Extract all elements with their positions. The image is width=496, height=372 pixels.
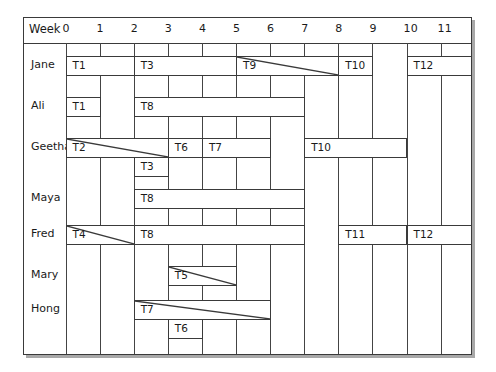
person-label-maya: Maya	[31, 191, 60, 204]
task-label: T3	[141, 160, 154, 172]
week-tick-label: 1	[97, 22, 104, 35]
week-tick-label: 7	[301, 22, 308, 35]
task-label: T7	[209, 141, 222, 153]
week-tick-label: 5	[233, 22, 240, 35]
week-gridline	[441, 43, 442, 354]
week-gridline	[66, 43, 67, 354]
person-label-ali: Ali	[31, 99, 45, 112]
task-bar-t5: T5	[168, 266, 237, 286]
week-tick-label: 6	[267, 22, 274, 35]
week-header-title: Week	[29, 22, 61, 36]
week-tick-label: 11	[438, 22, 452, 35]
task-label: T8	[141, 192, 154, 204]
task-label: T6	[175, 141, 188, 153]
task-label: T1	[73, 59, 86, 71]
task-bar-t8: T8	[134, 97, 306, 117]
week-tick-label: 9	[369, 22, 376, 35]
task-label: T7	[141, 303, 154, 315]
task-label: T4	[73, 228, 86, 240]
task-bar-t12: T12	[407, 56, 473, 76]
task-bar-t3: T3	[134, 157, 169, 177]
task-bar-t4: T4	[66, 225, 135, 245]
gantt-chart-frame: Week 01234567891011 JaneAliGeethaMayaFre…	[23, 17, 472, 355]
week-tick-label: 8	[335, 22, 342, 35]
person-label-jane: Jane	[31, 58, 55, 71]
week-gridline	[372, 43, 373, 354]
task-label: T1	[73, 100, 86, 112]
task-bar-t8: T8	[134, 189, 306, 209]
task-bar-t12: T12	[407, 225, 473, 245]
task-bar-t1: T1	[66, 97, 101, 117]
task-bar-t8: T8	[134, 225, 306, 245]
task-bar-t10: T10	[338, 56, 373, 76]
task-bar-t6: T6	[168, 319, 203, 339]
person-label-fred: Fred	[31, 227, 55, 240]
task-label: T6	[175, 322, 188, 334]
week-tick-label: 0	[63, 22, 70, 35]
week-tick-label: 2	[131, 22, 138, 35]
diagonal-slash-icon	[135, 301, 270, 319]
week-tick-label: 10	[404, 22, 418, 35]
task-label: T10	[311, 141, 331, 153]
task-bar-t2: T2	[66, 138, 169, 158]
task-bar-t3: T3	[134, 56, 237, 76]
person-label-hong: Hong	[31, 302, 60, 315]
task-bar-t11: T11	[338, 225, 407, 245]
task-bar-t6: T6	[168, 138, 203, 158]
task-bar-t9: T9	[236, 56, 339, 76]
task-label: T11	[345, 228, 365, 240]
task-label: T9	[243, 59, 256, 71]
task-label: T5	[175, 269, 188, 281]
task-label: T12	[414, 228, 434, 240]
task-label: T8	[141, 100, 154, 112]
task-bar-t1: T1	[66, 56, 135, 76]
person-label-mary: Mary	[31, 268, 58, 281]
week-gridline	[100, 43, 101, 354]
week-tick-label: 4	[199, 22, 206, 35]
week-gridline	[407, 43, 408, 354]
task-bar-t10: T10	[304, 138, 407, 158]
task-bar-t7: T7	[134, 300, 271, 320]
task-label: T8	[141, 228, 154, 240]
task-label: T2	[73, 141, 86, 153]
task-bar-t7: T7	[202, 138, 271, 158]
week-gridline	[338, 43, 339, 354]
task-label: T12	[414, 59, 434, 71]
week-header: Week 01234567891011	[24, 18, 471, 44]
task-label: T10	[345, 59, 365, 71]
task-label: T3	[141, 59, 154, 71]
week-tick-label: 3	[165, 22, 172, 35]
